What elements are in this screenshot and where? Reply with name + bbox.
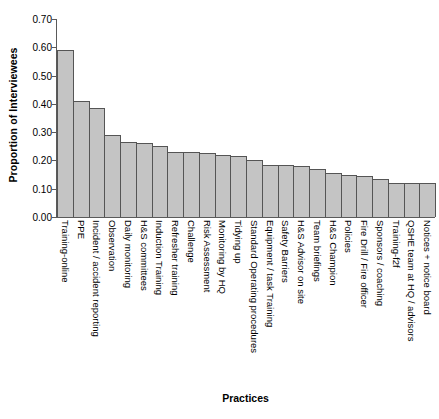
x-axis-tick-label-cell: QSHE team at HQ / advisors bbox=[404, 220, 420, 390]
x-axis-tick-label: Risk Assessment bbox=[202, 220, 212, 292]
bar bbox=[419, 183, 436, 217]
x-axis-tick-label-cell: Monitoring by HQ bbox=[215, 220, 231, 390]
bar bbox=[246, 160, 263, 217]
bar bbox=[309, 169, 326, 217]
x-axis-tick-label-cell: Induction Training bbox=[152, 220, 168, 390]
x-axis-tick-label: Incident / accident reporting bbox=[92, 220, 102, 337]
y-axis-tick bbox=[52, 76, 56, 77]
x-axis-tick-label-cell: Team briefings bbox=[309, 220, 325, 390]
plot-area bbox=[56, 19, 435, 217]
x-axis-tick-label-cell: PPE bbox=[73, 220, 89, 390]
x-axis-tick-label-cell: Notices + notice board bbox=[419, 220, 435, 390]
bar bbox=[152, 146, 169, 217]
x-axis-tick-label: Induction Training bbox=[155, 220, 165, 295]
x-axis-tick-label: Training-online bbox=[60, 220, 70, 283]
x-axis-tick-label: PPE bbox=[76, 220, 86, 239]
x-axis-tick-label-cell: Equipment / task Training bbox=[262, 220, 278, 390]
bar bbox=[341, 175, 358, 217]
x-axis-tick-label-cell: Observation bbox=[104, 220, 120, 390]
x-axis-tick-label-cell: Fire Drill / Fire officer bbox=[356, 220, 372, 390]
bar bbox=[388, 183, 405, 217]
x-axis-tick-label: Safety Barriers bbox=[281, 220, 291, 283]
x-axis-tick-label: Policies bbox=[344, 220, 354, 253]
y-axis-tick bbox=[52, 104, 56, 105]
bar bbox=[293, 166, 310, 217]
bar bbox=[120, 142, 137, 217]
y-axis-tick-label: 0.50 bbox=[33, 70, 52, 81]
y-axis-tick-label: 0.70 bbox=[33, 14, 52, 25]
x-axis-tick-label: Challenge bbox=[186, 220, 196, 263]
bar bbox=[57, 50, 74, 217]
x-axis-tick-labels: Training-onlinePPEIncident / accident re… bbox=[57, 220, 435, 390]
bar bbox=[73, 101, 90, 217]
bar bbox=[136, 143, 153, 217]
y-axis-tick bbox=[52, 19, 56, 20]
x-axis-tick-label: Standard Operating procedures bbox=[249, 220, 259, 353]
x-axis-tick-label: Monitoring by HQ bbox=[218, 220, 228, 294]
x-axis-tick-label: Training-f2f bbox=[391, 220, 401, 268]
x-axis-tick-label-cell: Risk Assessment bbox=[199, 220, 215, 390]
x-axis-tick-label: H&S Champion bbox=[328, 220, 338, 285]
bar bbox=[230, 156, 247, 217]
y-axis-tick-labels: 0.000.100.200.300.400.500.600.70 bbox=[20, 0, 52, 240]
x-axis-tick-label-cell: Daily monitoring bbox=[120, 220, 136, 390]
x-axis-tick-label-cell: Standard Operating procedures bbox=[246, 220, 262, 390]
bar bbox=[404, 183, 421, 217]
bar bbox=[356, 176, 373, 217]
x-axis-tick-label: Daily monitoring bbox=[123, 220, 133, 288]
y-axis-tick bbox=[52, 132, 56, 133]
x-axis-tick-label: Notices + notice board bbox=[422, 220, 432, 315]
x-axis-tick-label: Observation bbox=[107, 220, 117, 271]
x-axis-tick-label-cell: H&S Advisor on site bbox=[293, 220, 309, 390]
bar-series bbox=[57, 19, 435, 217]
x-axis-tick-label-cell: Incident / accident reporting bbox=[89, 220, 105, 390]
y-axis-tick bbox=[52, 160, 56, 161]
y-axis-tick-label: 0.00 bbox=[33, 212, 52, 223]
x-axis-tick-label: Fire Drill / Fire officer bbox=[359, 220, 369, 308]
y-axis-tick bbox=[52, 217, 56, 218]
x-axis-tick-label: H&S committees bbox=[139, 220, 149, 291]
y-axis-tick-label: 0.40 bbox=[33, 98, 52, 109]
bar bbox=[262, 165, 279, 217]
x-axis-tick-label: Refresher training bbox=[170, 220, 180, 296]
x-axis-line bbox=[56, 217, 435, 218]
bar bbox=[325, 173, 342, 217]
x-axis-tick-label: Equipment / task Training bbox=[265, 220, 275, 327]
bar bbox=[199, 153, 216, 217]
bar bbox=[104, 135, 121, 217]
x-axis-title: Practices bbox=[56, 392, 435, 404]
bar bbox=[278, 165, 295, 217]
x-axis-tick-label: QSHE team at HQ / advisors bbox=[407, 220, 417, 341]
y-axis-tick-label: 0.10 bbox=[33, 183, 52, 194]
x-axis-tick-label-cell: Training-f2f bbox=[388, 220, 404, 390]
x-axis-tick-label-cell: Policies bbox=[341, 220, 357, 390]
x-axis-tick-label-cell: Tidying up bbox=[230, 220, 246, 390]
bar-chart: Proportion of Interviewees 0.000.100.200… bbox=[0, 0, 439, 419]
x-axis-tick-label: Sponsors / coaching bbox=[375, 220, 385, 306]
bar bbox=[89, 108, 106, 217]
y-axis-tick bbox=[52, 47, 56, 48]
x-axis-tick-label-cell: Challenge bbox=[183, 220, 199, 390]
x-axis-tick-label-cell: Safety Barriers bbox=[278, 220, 294, 390]
bar bbox=[215, 155, 232, 217]
x-axis-tick-label-cell: H&S committees bbox=[136, 220, 152, 390]
x-axis-tick-label-cell: Sponsors / coaching bbox=[372, 220, 388, 390]
x-axis-tick-label: Team briefings bbox=[312, 220, 322, 282]
x-axis-tick-label-cell: Training-online bbox=[57, 220, 73, 390]
x-axis-tick-label: Tidying up bbox=[233, 220, 243, 263]
y-axis-tick-label: 0.20 bbox=[33, 155, 52, 166]
x-axis-tick-label-cell: Refresher training bbox=[167, 220, 183, 390]
bar bbox=[183, 152, 200, 217]
y-axis-title-text: Proportion of Interviewees bbox=[7, 47, 19, 182]
y-axis-tick-label: 0.30 bbox=[33, 127, 52, 138]
bar bbox=[167, 152, 184, 217]
x-axis-tick-label-cell: H&S Champion bbox=[325, 220, 341, 390]
bar bbox=[372, 179, 389, 217]
y-axis-tick bbox=[52, 189, 56, 190]
x-axis-tick-label: H&S Advisor on site bbox=[296, 220, 306, 304]
y-axis-tick-label: 0.60 bbox=[33, 42, 52, 53]
